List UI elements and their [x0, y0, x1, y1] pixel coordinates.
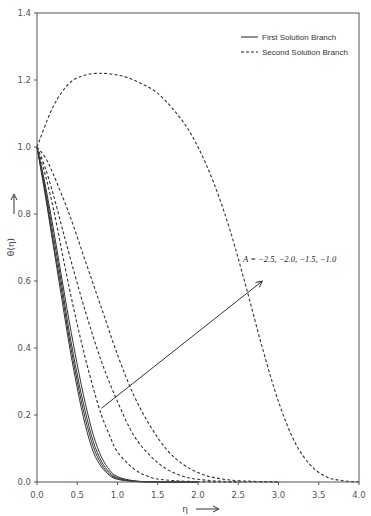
y-tick-label: 0.8: [17, 209, 31, 219]
y-tick-label: 0.4: [17, 343, 31, 353]
y-tick-label: 1.2: [17, 75, 31, 85]
y-tick-label: 0.6: [17, 276, 31, 286]
y-tick-label: 0.0: [17, 477, 31, 487]
y-tick-label: 1.0: [17, 142, 31, 152]
y-tick-label: 1.4: [17, 8, 31, 18]
parameter-annotation: A = −2.5, −2.0, −1.5, −1.0: [242, 254, 337, 264]
x-tick-label: 4.0: [352, 490, 366, 500]
y-axis-label: θ(η): [6, 238, 16, 256]
x-tick-label: 2.5: [231, 490, 245, 500]
x-tick-label: 1.0: [111, 490, 125, 500]
legend-label-first: First Solution Branch: [262, 33, 336, 42]
x-tick-label: 0.0: [30, 490, 44, 500]
x-tick-label: 1.5: [151, 490, 165, 500]
x-tick-label: 3.0: [272, 490, 286, 500]
y-tick-label: 0.2: [17, 410, 31, 420]
x-tick-label: 3.5: [312, 490, 326, 500]
x-tick-label: 0.5: [70, 490, 84, 500]
line-chart: 0.00.51.01.52.02.53.03.54.0 0.00.20.40.6…: [0, 0, 371, 516]
x-axis-label: η: [182, 504, 188, 514]
legend-label-second: Second Solution Branch: [262, 48, 348, 57]
x-tick-label: 2.0: [191, 490, 205, 500]
